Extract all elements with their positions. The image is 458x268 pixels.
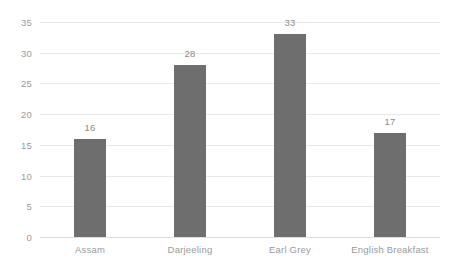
bar-value-label: 17: [385, 116, 396, 127]
y-axis-tick-label: 15: [21, 139, 32, 150]
y-axis-tick-label: 25: [21, 78, 32, 89]
y-axis-tick-label: 35: [21, 17, 32, 28]
bar-value-label: 16: [85, 122, 96, 133]
y-axis-tick-label: 20: [21, 109, 32, 120]
bars-layer: 16Assam28Darjeeling33Earl Grey17English …: [40, 0, 440, 268]
bar[interactable]: [74, 139, 106, 237]
bar[interactable]: [174, 65, 206, 237]
bar[interactable]: [274, 34, 306, 237]
x-axis-category-label: Assam: [75, 244, 105, 255]
bar-chart: 05101520253035 16Assam28Darjeeling33Earl…: [0, 0, 458, 268]
bar-group: 17English Breakfast: [340, 0, 440, 268]
y-axis-tick-label: 30: [21, 47, 32, 58]
y-axis-tick-label: 10: [21, 170, 32, 181]
bar[interactable]: [374, 133, 406, 237]
y-axis-tick-label: 0: [27, 232, 32, 243]
y-axis: 05101520253035: [0, 0, 40, 268]
bar-group: 16Assam: [40, 0, 140, 268]
bar-value-label: 33: [285, 17, 296, 28]
x-axis-category-label: English Breakfast: [351, 244, 428, 255]
x-axis-category-label: Earl Grey: [269, 244, 311, 255]
bar-group: 33Earl Grey: [240, 0, 340, 268]
x-axis-category-label: Darjeeling: [168, 244, 213, 255]
bar-value-label: 28: [185, 48, 196, 59]
y-axis-tick-label: 5: [27, 201, 32, 212]
bar-group: 28Darjeeling: [140, 0, 240, 268]
